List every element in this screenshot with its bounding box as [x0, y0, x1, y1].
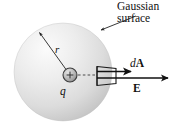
area-element-label-a: A [136, 57, 144, 69]
gaussian-surface-label-line2: surface [117, 13, 159, 25]
area-element-label: dA [130, 58, 144, 70]
gaussian-surface-label-line1: Gaussian [117, 1, 159, 13]
charge-label: q [60, 86, 66, 98]
electric-field-label: E [133, 83, 141, 95]
radius-label: r [55, 44, 59, 55]
gaussian-surface-label: Gaussian surface [117, 1, 159, 24]
